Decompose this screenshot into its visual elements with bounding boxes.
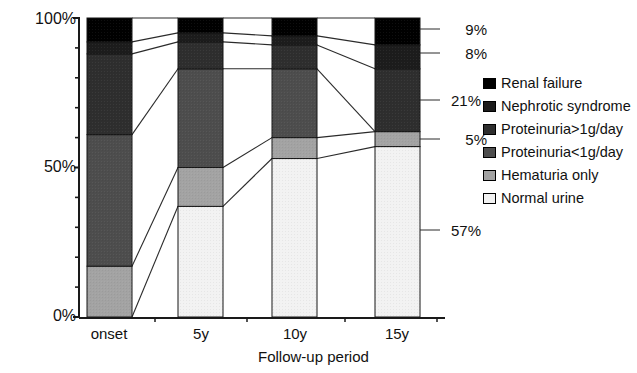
bar-onset [87, 18, 132, 317]
legend-item-label: Proteinuria>1g/day [501, 122, 623, 137]
legend-item-label: Renal failure [501, 76, 582, 91]
x-tick-onset: onset [64, 325, 154, 342]
segment-texture [178, 206, 223, 317]
legend-swatch-icon [483, 78, 496, 89]
segment-texture [178, 69, 223, 168]
legend-swatch-icon [483, 101, 496, 112]
segment-texture [272, 69, 317, 138]
x-axis-title: Follow-up period [258, 348, 369, 365]
legend-item-nephrotic-syndrome[interactable]: Nephrotic syndrome [483, 95, 637, 118]
segment-texture [178, 168, 223, 207]
x-axis [79, 318, 445, 322]
legend-swatch-icon [483, 124, 496, 135]
segment-texture [375, 132, 420, 147]
segment-texture [272, 18, 317, 36]
legend-swatch-icon [483, 193, 496, 204]
legend-swatch-icon [483, 170, 496, 181]
y-axis-label-100: 100% [4, 10, 76, 28]
x-tick-15y: 15y [352, 325, 442, 342]
callout-proteinuria-gt-1g: 21% [435, 92, 481, 109]
callout-hematuria: 5% [441, 131, 487, 148]
legend-item-label: Normal urine [501, 191, 584, 206]
segment-texture [375, 147, 420, 317]
legend-item-label: Hematuria only [501, 168, 599, 183]
segment-texture [87, 266, 132, 317]
segment-texture [178, 42, 223, 69]
segment-texture [87, 54, 132, 135]
legend-item-normal-urine[interactable]: Normal urine [483, 187, 637, 210]
segment-texture [178, 33, 223, 42]
segment-texture [178, 18, 223, 33]
segment-texture [87, 135, 132, 267]
callout-renal-failure: 9% [441, 21, 487, 38]
segment-texture [87, 42, 132, 54]
bar-5y [178, 18, 223, 317]
segment-texture [375, 18, 420, 45]
segment-texture [272, 138, 317, 159]
segment-texture [87, 18, 132, 42]
segment-texture [272, 159, 317, 317]
legend-item-proteinuria-1g-day[interactable]: Proteinuria>1g/day [483, 118, 637, 141]
callout-leader-lines [420, 29, 440, 230]
legend-item-label: Proteinuria<1g/day [501, 145, 623, 160]
bar-10y [272, 18, 317, 317]
segment-texture [375, 69, 420, 132]
x-tick-5y: 5y [156, 325, 246, 342]
legend-item-renal-failure[interactable]: Renal failure [483, 72, 637, 95]
bar-group [87, 18, 420, 317]
legend-item-label: Nephrotic syndrome [501, 99, 631, 114]
y-axis-label-50: 50% [4, 158, 76, 176]
callout-normal-urine: 57% [435, 222, 481, 239]
connector-bands [132, 18, 375, 317]
legend-item-hematuria-only[interactable]: Hematuria only [483, 164, 637, 187]
segment-texture [272, 36, 317, 45]
legend-item-proteinuria-1g-day[interactable]: Proteinuria<1g/day [483, 141, 637, 164]
callout-nephrotic-syndrome: 8% [441, 45, 487, 62]
segment-texture [375, 45, 420, 69]
chart-figure: 100% 50% 0% onset 5y 10y 15y Follow-up p… [0, 0, 637, 373]
legend-swatch-icon [483, 147, 496, 158]
bar-15y [375, 18, 420, 317]
segment-texture [272, 45, 317, 69]
y-axis-label-0: 0% [4, 307, 76, 325]
legend: Renal failureNephrotic syndromeProteinur… [483, 72, 637, 210]
x-tick-10y: 10y [250, 325, 340, 342]
